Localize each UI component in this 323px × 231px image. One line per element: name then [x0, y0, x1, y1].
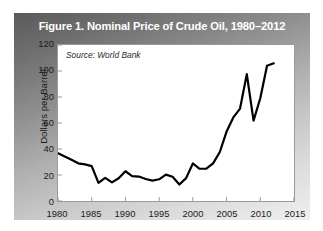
y-tick-label: 100: [28, 65, 54, 74]
series-line-0: [58, 63, 274, 184]
y-tick-label: 20: [28, 171, 54, 180]
chart-line-svg: [58, 45, 294, 201]
y-tick-label: 80: [28, 92, 54, 101]
y-tick-label: 60: [28, 118, 54, 127]
x-axis-tick-labels: 19801985199019952000200520102015: [57, 205, 295, 221]
plot-area: Source: World Bank: [57, 44, 295, 202]
y-tick-label: 0: [28, 197, 54, 206]
figure-root: Figure 1. Nominal Price of Crude Oil, 19…: [0, 0, 323, 231]
chart-title: Figure 1. Nominal Price of Crude Oil, 19…: [14, 20, 310, 32]
y-tick-label: 40: [28, 144, 54, 153]
y-axis-tick-labels: 020406080100120: [24, 44, 54, 202]
y-tick-label: 120: [28, 39, 54, 48]
figure-panel: Figure 1. Nominal Price of Crude Oil, 19…: [14, 13, 310, 220]
x-tick-label: 2015: [275, 209, 315, 218]
